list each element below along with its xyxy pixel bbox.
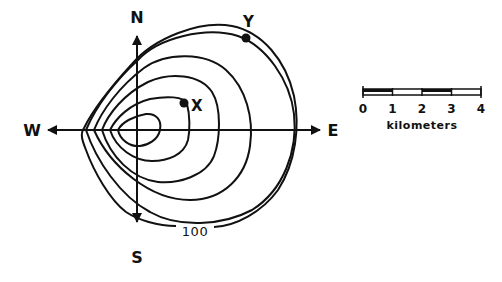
compass-west-label: W	[23, 123, 41, 139]
compass-east-label: E	[328, 123, 339, 139]
point-x-label: X	[191, 99, 203, 114]
contour-map	[0, 0, 502, 282]
scale-tick-2: 2	[418, 103, 426, 115]
scale-bar	[363, 86, 481, 98]
point-y-marker	[242, 34, 251, 43]
contour-lines	[82, 25, 297, 227]
compass-south-label: S	[131, 250, 143, 266]
scale-tick-4: 4	[477, 103, 485, 115]
contour-4	[94, 56, 251, 200]
scale-unit-label: kilometers	[386, 120, 457, 131]
scale-tick-1: 1	[388, 103, 396, 115]
scale-tick-0: 0	[359, 103, 367, 115]
point-y-label: Y	[243, 15, 254, 30]
compass-north-label: N	[130, 10, 143, 26]
point-x-marker	[180, 99, 189, 108]
contour-value-label: 100	[179, 225, 211, 238]
scale-tick-3: 3	[447, 103, 455, 115]
